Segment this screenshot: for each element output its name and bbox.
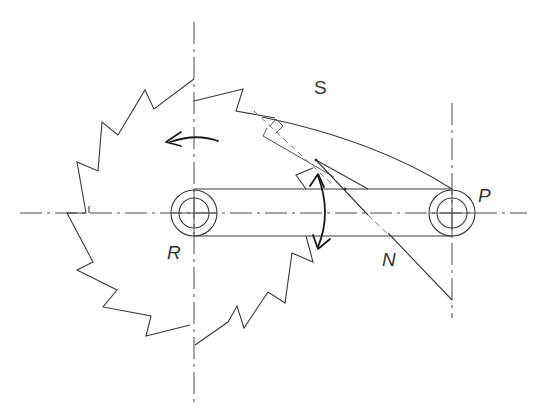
- label-n: N: [382, 250, 396, 269]
- ratchet-wheel-right-teeth-lower: [195, 236, 313, 345]
- ratchet-wheel-left-teeth: [67, 79, 194, 336]
- ratchet-diagram: S P R N: [0, 0, 546, 418]
- pivot-p: [429, 190, 475, 236]
- label-r: R: [167, 243, 181, 262]
- oscillation-arrow-icon: [310, 174, 330, 249]
- label-s: S: [314, 78, 327, 97]
- label-p: P: [478, 186, 491, 205]
- ratchet-wheel-right-teeth-upper: [194, 89, 275, 118]
- normal-line-n: [388, 233, 452, 300]
- pawl-arc-s: [262, 117, 452, 189]
- pivot-r: [171, 190, 217, 236]
- rotation-arrow-icon: [166, 132, 218, 146]
- normal-line-dashed-lower: [368, 215, 390, 236]
- diagram-canvas: [0, 0, 546, 418]
- normal-line-dashed: [254, 111, 333, 185]
